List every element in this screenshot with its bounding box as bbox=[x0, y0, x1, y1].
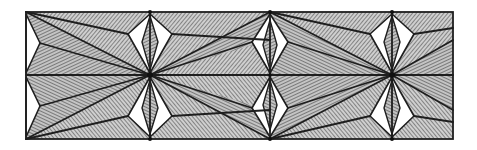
frieze-pattern bbox=[0, 0, 477, 150]
